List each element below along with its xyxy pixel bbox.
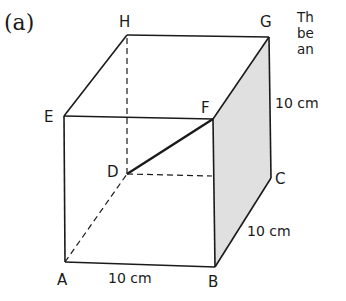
edge-hg <box>127 35 269 37</box>
cuboid-figure: (a) Th be an H G E <box>0 0 346 301</box>
dimension-label-ab: 10 cm <box>108 270 152 286</box>
vertex-label-a: A <box>57 271 68 289</box>
diagonal-df <box>127 119 213 174</box>
edge-eh <box>64 35 127 116</box>
hidden-edge-ad <box>65 174 127 262</box>
cuboid-diagram: H G E F D C A B 10 cm 10 cm 10 cm <box>0 0 346 301</box>
vertex-label-e: E <box>44 108 53 126</box>
edge-ae <box>64 116 65 262</box>
vertex-label-h: H <box>119 13 130 31</box>
vertex-label-b: B <box>208 273 218 291</box>
vertex-label-f: F <box>201 99 210 117</box>
vertex-label-d: D <box>107 163 119 181</box>
edge-ab <box>65 262 215 267</box>
vertex-label-c: C <box>275 170 285 188</box>
dimension-label-bc: 10 cm <box>247 223 291 239</box>
hidden-edge-dc <box>127 174 212 176</box>
vertex-label-g: G <box>260 13 272 31</box>
dimension-label-cg: 10 cm <box>275 95 319 111</box>
edge-ef <box>64 116 213 119</box>
